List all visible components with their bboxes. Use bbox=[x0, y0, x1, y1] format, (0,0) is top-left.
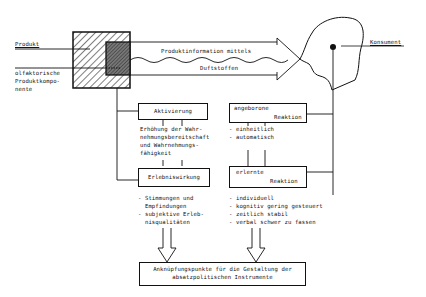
activation-desc-3: und Wahrnehmungs- bbox=[140, 142, 199, 150]
learned-label-line2: Reaktion bbox=[270, 178, 298, 186]
activation-desc-4: fähigkeit bbox=[140, 150, 171, 158]
olfactory-label-line3: nente bbox=[15, 86, 32, 94]
diagram-lines bbox=[0, 0, 426, 297]
activation-box: Aktivierung bbox=[138, 103, 208, 120]
consumer-label: Konsument bbox=[370, 39, 401, 47]
innate-label-line2: Reaktion bbox=[274, 114, 302, 122]
experience-label: Erlebniswirkung bbox=[139, 169, 209, 186]
olfactory-label-line1: olfaktorische bbox=[15, 70, 60, 78]
learned-desc-1: - individuell bbox=[229, 195, 274, 203]
bottom-result-box: Anknüpfungspunkte für die Gestaltung der… bbox=[139, 262, 306, 286]
arrow-bottom-text: Duftstoffen bbox=[200, 65, 238, 73]
experience-desc-4: nisqualitäten bbox=[138, 219, 190, 227]
experience-effect-box: Erlebniswirkung bbox=[138, 168, 210, 187]
experience-desc-1: - Stimmungen und bbox=[138, 195, 193, 203]
experience-desc-3: - subjektive Erleb- bbox=[138, 211, 204, 219]
learned-label-line1: erlernte bbox=[236, 169, 264, 177]
learned-desc-2: - kognitiv gering gesteuert bbox=[229, 203, 323, 211]
activation-desc-2: nehmungsbereitschaft bbox=[140, 134, 209, 142]
product-block bbox=[73, 32, 130, 88]
consumer-eye-dot bbox=[330, 44, 336, 50]
innate-desc-2: - automatisch bbox=[229, 134, 274, 142]
bottom-line1: Anknüpfungspunkte für die Gestaltung der bbox=[140, 266, 305, 274]
down-arrows bbox=[158, 228, 265, 262]
information-arrows bbox=[130, 38, 300, 80]
activation-desc-1: Erhöhung der Wahr- bbox=[140, 126, 202, 134]
product-label: Produkt bbox=[15, 41, 39, 49]
bottom-line2: absatzpolitischen Instrumente bbox=[140, 274, 305, 282]
innate-reaction-box: angeborone Reaktion bbox=[229, 103, 307, 123]
activation-label: Aktivierung bbox=[139, 104, 207, 119]
arrow-top-text: Produktinformation mittels bbox=[161, 48, 251, 56]
consumer-head-icon bbox=[300, 17, 363, 90]
innate-desc-1: - einheitlich bbox=[229, 126, 274, 134]
learned-desc-3: - zeitlich stabil bbox=[229, 211, 288, 219]
learned-reaction-box: erlernte Reaktion bbox=[229, 166, 307, 188]
olfactory-label-line2: Produktkompo- bbox=[15, 78, 60, 86]
experience-desc-2: Empfindungen bbox=[138, 203, 187, 211]
learned-desc-4: - verbal schwer zu fassen bbox=[229, 219, 316, 227]
innate-label-line1: angeborone bbox=[234, 105, 269, 113]
